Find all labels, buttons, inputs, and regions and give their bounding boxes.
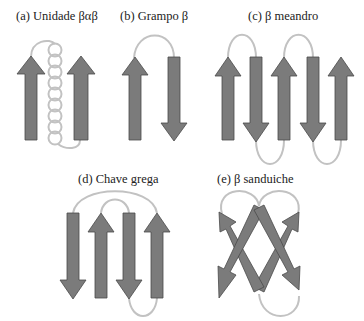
- panel-a-beta-alpha-beta: [17, 41, 95, 148]
- strand-up-arrow-icon: [328, 57, 354, 140]
- loop-e-bottom: [259, 294, 299, 316]
- strand-up-arrow-icon: [144, 213, 170, 298]
- loop-d-outer: [73, 191, 157, 213]
- strand-down-arrow-icon: [161, 57, 187, 141]
- strand-up-arrow-icon: [17, 56, 45, 140]
- strand-down-arrow-icon: [243, 57, 269, 142]
- panel-e-sandwich: [218, 191, 300, 316]
- panel-b-hairpin: [122, 36, 187, 142]
- strand-up-arrow-icon: [271, 57, 297, 140]
- strand-up-arrow-icon: [67, 56, 95, 140]
- loop-c-bottom-1: [256, 140, 284, 164]
- strand-up-arrow-icon: [215, 57, 241, 140]
- loop-c-bottom-2: [313, 140, 341, 164]
- loop-b-top: [134, 36, 174, 59]
- strand-up-arrow-icon: [122, 57, 148, 140]
- diagram-canvas: [0, 0, 364, 321]
- strand-up-arrow-icon: [88, 213, 114, 298]
- loop-c-top-2: [284, 35, 313, 58]
- loop-d-inner: [101, 200, 129, 214]
- panel-c-meander: [215, 35, 354, 164]
- alpha-helix: [49, 44, 62, 145]
- panel-d-greek-key: [60, 191, 170, 316]
- strand-down-arrow-icon: [60, 213, 86, 299]
- loop-c-top-1: [228, 35, 256, 58]
- strand-down-arrow-icon: [116, 213, 142, 299]
- strand-down-arrow-icon: [300, 57, 326, 142]
- loop-d-bottom: [129, 298, 157, 316]
